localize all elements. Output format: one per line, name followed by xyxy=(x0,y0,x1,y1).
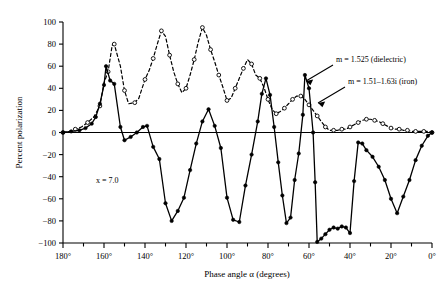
data-point-filled xyxy=(182,196,185,199)
data-point-open xyxy=(112,42,116,46)
data-point-filled xyxy=(145,124,148,127)
x-tick-label: 80° xyxy=(262,251,274,261)
x-tick-label: 60° xyxy=(303,251,315,261)
data-point-open xyxy=(373,118,377,122)
data-point-filled xyxy=(383,178,386,181)
data-point-filled xyxy=(264,77,267,80)
data-point-filled xyxy=(207,108,210,111)
data-point-open xyxy=(133,101,137,105)
data-point-filled xyxy=(389,197,392,200)
data-point-open xyxy=(414,129,418,133)
x-tick-label: 40° xyxy=(344,251,356,261)
data-point-filled xyxy=(365,148,368,151)
data-point-filled xyxy=(78,129,81,132)
data-point-open xyxy=(340,127,344,131)
data-point-open xyxy=(283,106,287,110)
data-point-filled xyxy=(316,240,319,243)
y-tick-label: 0 xyxy=(52,128,56,138)
data-point-filled xyxy=(371,155,374,158)
data-point-open xyxy=(86,121,90,125)
data-point-filled xyxy=(129,135,132,138)
x-tick-label: 120° xyxy=(178,251,194,261)
y-tick-label: −40 xyxy=(43,172,56,182)
data-point-open xyxy=(291,97,295,101)
data-point-filled xyxy=(293,178,296,181)
data-point-filled xyxy=(164,202,167,205)
x-axis-title: Phase angle α (degrees) xyxy=(204,269,289,279)
data-point-filled xyxy=(344,226,347,229)
data-point-filled xyxy=(188,168,191,171)
annotation-dielectric-label: m = 1.525 (dielectric) xyxy=(336,55,406,64)
data-point-open xyxy=(299,94,303,98)
data-point-filled xyxy=(256,120,259,123)
data-point-filled xyxy=(277,161,280,164)
data-point-filled xyxy=(348,231,351,234)
annotation-x-parameter: x = 7.0 xyxy=(96,176,119,185)
chart-canvas: 100806040200−20−40−60−80−100 180°160°140… xyxy=(0,0,443,285)
data-point-filled xyxy=(430,131,433,134)
data-point-filled xyxy=(336,227,339,230)
data-point-filled xyxy=(420,144,423,147)
data-point-open xyxy=(381,122,385,126)
data-point-filled xyxy=(268,93,271,96)
data-point-filled xyxy=(357,141,360,144)
data-point-filled xyxy=(225,196,228,199)
data-point-filled xyxy=(301,113,304,116)
data-point-filled xyxy=(414,158,417,161)
data-point-open xyxy=(143,78,147,82)
data-point-open xyxy=(225,99,229,103)
data-point-filled xyxy=(152,145,155,148)
x-tick-label: 140° xyxy=(137,251,153,261)
data-point-filled xyxy=(104,65,107,68)
data-point-filled xyxy=(90,122,93,125)
data-point-filled xyxy=(238,220,241,223)
data-point-filled xyxy=(201,120,204,123)
annotation-iron-label: m = 1.51–1.63i (iron) xyxy=(348,77,418,86)
data-point-open xyxy=(242,67,246,71)
data-point-open xyxy=(233,86,237,90)
data-point-filled xyxy=(340,225,343,228)
data-point-filled xyxy=(303,73,306,76)
y-tick-label: 60 xyxy=(48,61,57,71)
data-point-filled xyxy=(98,102,101,105)
data-point-filled xyxy=(70,130,73,133)
data-point-filled xyxy=(102,83,105,86)
data-point-open xyxy=(123,89,127,93)
y-tick-label: −20 xyxy=(43,150,56,160)
data-point-filled xyxy=(108,79,111,82)
data-point-filled xyxy=(328,228,331,231)
data-point-filled xyxy=(272,125,275,128)
data-point-open xyxy=(365,117,369,121)
data-point-open xyxy=(332,128,336,132)
data-point-open xyxy=(151,57,155,61)
data-point-open xyxy=(176,82,180,86)
data-point-filled xyxy=(94,115,97,118)
chart-background xyxy=(0,0,443,285)
y-axis-title: Percent polarization xyxy=(14,96,24,169)
y-tick-label: 20 xyxy=(48,105,57,115)
x-tick-label: 20° xyxy=(385,251,397,261)
data-point-open xyxy=(324,125,328,129)
data-point-open xyxy=(250,62,254,66)
data-point-filled xyxy=(260,92,263,95)
x-tick-label: 180° xyxy=(55,251,71,261)
data-point-filled xyxy=(170,219,173,222)
y-tick-label: 80 xyxy=(48,39,57,49)
data-point-filled xyxy=(195,142,198,145)
data-point-filled xyxy=(141,125,144,128)
x-tick-label: 100° xyxy=(219,251,235,261)
data-point-filled xyxy=(213,124,216,127)
data-point-open xyxy=(217,73,221,77)
data-point-filled xyxy=(123,139,126,142)
data-point-open xyxy=(397,127,401,131)
y-tick-label: −100 xyxy=(38,238,56,248)
data-point-filled xyxy=(352,179,355,182)
data-point-open xyxy=(406,128,410,132)
data-point-filled xyxy=(135,131,138,134)
data-point-open xyxy=(274,112,278,116)
y-tick-label: −60 xyxy=(43,194,56,204)
x-tick-label: 0° xyxy=(428,251,436,261)
data-point-filled xyxy=(311,131,314,134)
data-point-open xyxy=(184,86,188,90)
data-point-filled xyxy=(285,221,288,224)
